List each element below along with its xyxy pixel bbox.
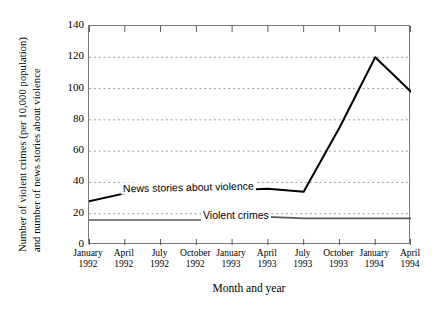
series-label-violent-crimes: Violent crimes <box>201 209 271 221</box>
x-axis-title: Month and year <box>88 282 410 294</box>
x-tick-label: April1994 <box>381 248 437 270</box>
y-axis-title: Number of violent crimes (per 10,000 pop… <box>0 0 44 260</box>
y-tick-label: 60 <box>54 144 84 155</box>
y-axis-title-line-2: and number of news stories about violenc… <box>31 68 42 252</box>
series-lines <box>89 57 411 220</box>
y-tick-label: 120 <box>54 50 84 61</box>
bottom-axis-ticks <box>90 239 411 245</box>
y-axis-title-line-1: Number of violent crimes (per 10,000 pop… <box>17 37 28 252</box>
chart-figure: Number of violent crimes (per 10,000 pop… <box>0 0 437 313</box>
y-tick-label: 80 <box>54 113 84 124</box>
x-axis-tick-labels: January1992April1992July1992October1992J… <box>88 248 410 278</box>
y-tick-label: 40 <box>54 175 84 186</box>
y-tick-label: 20 <box>54 207 84 218</box>
y-tick-label: 100 <box>54 82 84 93</box>
top-axis-ticks <box>90 26 411 32</box>
y-tick-label: 140 <box>54 19 84 30</box>
